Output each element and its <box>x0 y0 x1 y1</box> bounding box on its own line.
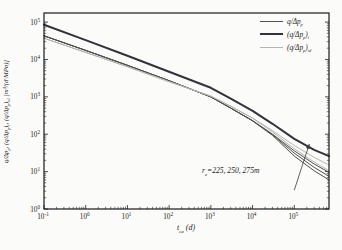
legend-line-sample-rate <box>260 21 283 22</box>
x-axis-label: tca (d) <box>136 223 236 232</box>
figure: 10-1100101102103104105100101102103104105… <box>0 0 342 250</box>
x-tick-label-1e1: 101 <box>122 211 132 221</box>
y-tick-label-1e0: 100 <box>30 204 40 214</box>
legend-item-rate-integral: (q/Δpp)i <box>260 29 311 39</box>
legend-label-rate-integral: (q/Δpp)i <box>287 30 309 39</box>
legend: q/Δpp (q/Δpp)i (q/Δpp)id <box>258 13 313 55</box>
x-tick-label-1e0: 100 <box>80 211 90 221</box>
legend-label-rate: q/Δpp <box>287 17 303 26</box>
annotation-arrow-line <box>294 144 309 190</box>
legend-line-sample-rate-integral <box>260 33 283 35</box>
x-tick-label-1e3: 103 <box>205 211 215 221</box>
legend-label-rate-integral-derivative: (q/Δpp)id <box>287 43 311 52</box>
x-tick-label-1e4: 104 <box>247 211 257 221</box>
x-tick-label-1e5: 105 <box>288 211 298 221</box>
curve-rate-re275 <box>44 36 329 173</box>
curve-rate-integral-derivative-b <box>44 38 329 171</box>
legend-item-rate-integral-derivative: (q/Δpp)id <box>260 42 311 52</box>
y-tick-label-1e2: 102 <box>30 129 40 139</box>
curve-rate-re250 <box>44 36 329 177</box>
y-tick-label-1e1: 101 <box>30 166 40 176</box>
x-tick-label-1e-1: 10-1 <box>37 211 49 221</box>
y-tick-label-1e5: 105 <box>30 17 40 27</box>
legend-item-rate: q/Δpp <box>260 16 311 26</box>
legend-line-sample-rate-integral-derivative <box>260 47 283 48</box>
x-tick-label-1e2: 102 <box>163 211 173 221</box>
y-tick-label-1e3: 103 <box>30 91 40 101</box>
curve-rate-re225 <box>44 36 329 180</box>
y-axis-label: q/Δpp, (q/Δpp)i, (q/Δpp)id [m³/(d·MPa)] <box>2 12 13 212</box>
annotation-re-values: re=225, 250, 275m <box>202 166 259 175</box>
y-tick-label-1e4: 104 <box>30 54 40 64</box>
